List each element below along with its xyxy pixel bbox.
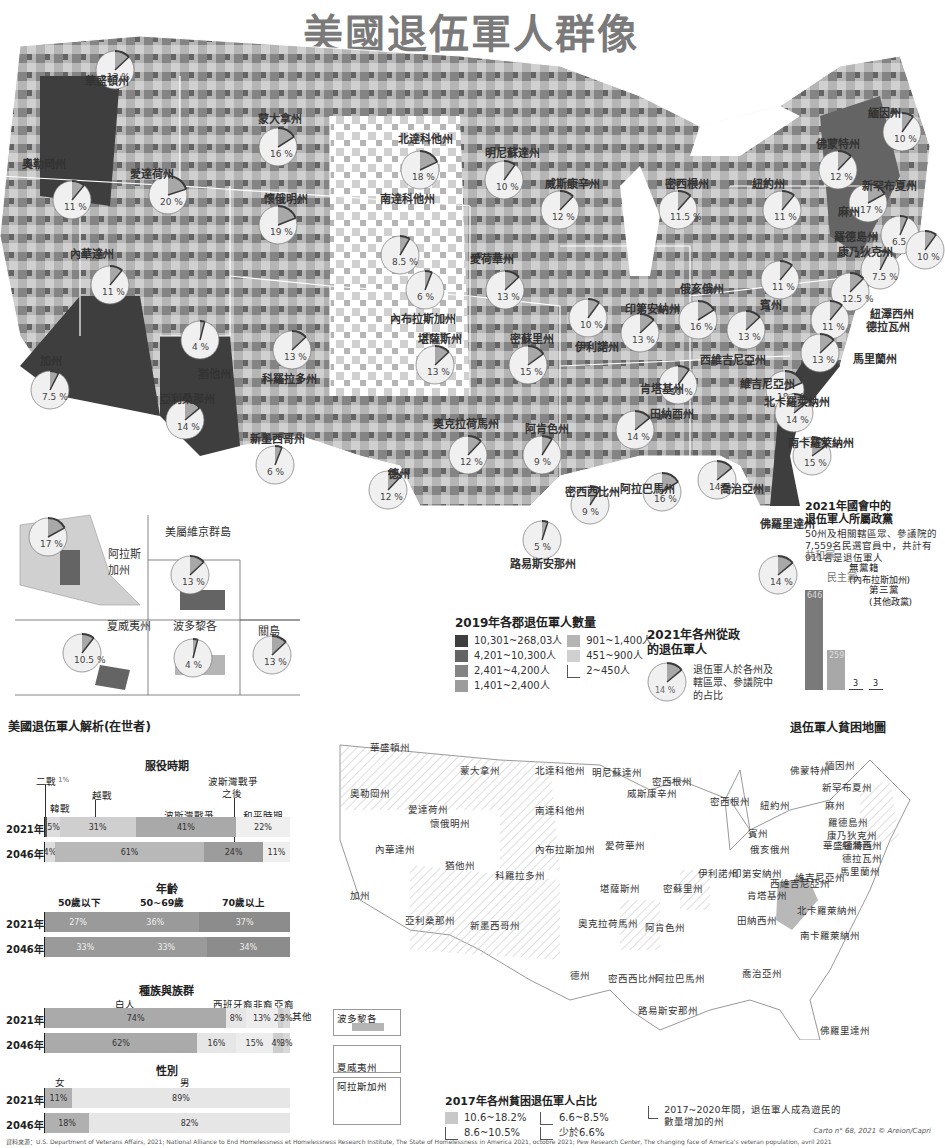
state-label: 阿肯色州 — [525, 420, 569, 436]
state-label: 田納西州 — [650, 405, 694, 421]
poverty-state-label: 北達科他州 — [535, 765, 585, 777]
territory-pie-pct: 13 % — [182, 577, 205, 587]
legend-swatch — [445, 1112, 458, 1124]
legend-swatch — [567, 635, 580, 647]
label-ww2-pct: 1% — [58, 776, 69, 784]
bar-segment: 41% — [136, 817, 236, 837]
poverty-state-label: 路易斯安那州 — [638, 1005, 698, 1017]
state-pie-pct: 11 % — [102, 287, 125, 297]
state-pie-pct: 13 % — [497, 292, 520, 302]
state-pie-pct: 15 % — [520, 367, 543, 377]
legend-swatch — [567, 665, 580, 678]
state-label: 佛蒙特州 — [816, 135, 860, 151]
state-pie-pct: 17 % — [860, 205, 883, 215]
bar-segment: 62% — [45, 1033, 197, 1053]
county-legend-item: 2,401~4,200人 — [455, 663, 567, 678]
legend-label: 1,401~2,400人 — [474, 680, 550, 691]
legend-label: 4,201~10,300人 — [474, 650, 556, 661]
state-label: 德州 — [388, 465, 410, 481]
legend-label: 6.6~8.5% — [559, 1112, 609, 1123]
state-pie-pct: 12 % — [830, 172, 853, 182]
state-pie-pct: 11 % — [822, 322, 845, 332]
territory-pie: 13 % — [170, 555, 210, 595]
row-year: 2046年 — [6, 1037, 44, 1052]
poverty-legend-item: 6.6~8.5% — [540, 1110, 635, 1125]
state-label: 麻州 — [838, 203, 860, 219]
state-pie-pct: 15 % — [804, 458, 827, 468]
legend-swatch — [567, 650, 580, 662]
legend-label: 10,301~268,03人 — [474, 635, 562, 646]
state-label: 奧勒岡州 — [22, 155, 66, 171]
territory-label: 關島 — [258, 622, 280, 638]
poverty-state-label: 加州 — [350, 890, 370, 902]
poverty-legend-title: 2017年各州貧困退伍軍人占比 — [445, 1092, 645, 1108]
state-label: 威斯康辛州 — [545, 175, 600, 191]
state-pie-pct: 13 % — [427, 367, 450, 377]
bar-segment: 3% — [283, 1008, 290, 1028]
congress-bar-value: 646 — [807, 591, 822, 600]
bar-segment: 8% — [226, 1008, 246, 1028]
poverty-state-label: 阿肯色州 — [645, 922, 685, 934]
state-pie-pct: 9 % — [582, 507, 599, 517]
poverty-state-label: 佛蒙特州 — [790, 765, 830, 777]
state-pie-pct: 18 % — [412, 172, 435, 182]
state-pie-pct: 6 % — [417, 292, 434, 302]
territories-insets: 17 %阿拉斯加州13 %美屬維京群島10.5 %夏威夷州4 %波多黎各13 %… — [0, 505, 320, 700]
poverty-state-label: 阿拉巴馬州 — [655, 973, 705, 985]
state-pie: 12 % — [448, 435, 488, 475]
state-label: 德拉瓦州 — [866, 318, 910, 334]
stacked-bar: 11%89% — [44, 1088, 290, 1108]
poverty-state-label: 蒙大拿州 — [460, 765, 500, 777]
state-pie: 6 % — [405, 270, 445, 310]
state-pie-pct: 10 % — [894, 134, 917, 144]
state-label: 北卡羅萊納州 — [764, 393, 830, 409]
poverty-state-label: 維吉尼亞州 — [795, 872, 845, 884]
poverty-state-label: 華盛頓州 — [370, 742, 410, 754]
gender-title: 性別 — [44, 1062, 289, 1078]
state-pie-pct: 16 % — [270, 149, 293, 159]
state-pie: 15 % — [508, 345, 548, 385]
congress-bar — [849, 688, 863, 690]
state-pie-pct: 10 % — [917, 252, 940, 262]
bar-segment: 31% — [60, 817, 136, 837]
label-post-gulf-2: 之後 — [222, 786, 242, 800]
territory-label: 美屬維京群島 — [165, 523, 231, 539]
state-pie-pct: 12 % — [460, 457, 483, 467]
poverty-state-label: 愛達荷州 — [408, 804, 448, 816]
territory-pie: 17 % — [28, 517, 68, 557]
poverty-state-label: 科羅拉多州 — [495, 870, 545, 882]
county-legend-item: 1,401~2,400人 — [455, 678, 567, 693]
row-year: 2021年 — [6, 821, 44, 836]
stacked-bar: 74%8%13%2%3% — [44, 1008, 290, 1028]
territory-pie: 13 % — [252, 635, 292, 675]
poverty-state-label: 德州 — [570, 970, 590, 982]
state-pie-pct: 13 % — [738, 332, 761, 342]
state-pie: 13 % — [620, 313, 660, 353]
poverty-state-label: 新罕布夏州 — [822, 782, 872, 794]
poverty-state-label: 威斯康辛州 — [627, 788, 677, 800]
hatch-legend: 2017~2020年間，退伍軍人成為遊民的數量增加的州 — [648, 1104, 848, 1128]
poverty-state-label: 內布拉斯加州 — [535, 844, 595, 856]
poverty-legend-item: 10.6~18.2% — [445, 1110, 540, 1125]
state-pie: 12 % — [540, 190, 580, 230]
state-label: 堪薩斯州 — [418, 330, 462, 346]
state-pie: 5 % — [522, 520, 562, 560]
state-pie: 14 % — [165, 400, 205, 440]
state-pie-pct: 14 % — [177, 422, 200, 432]
state-label: 緬因州 — [868, 104, 901, 120]
poverty-state-label: 麻州 — [825, 800, 845, 812]
poverty-state-label: 堪薩斯州 — [600, 883, 640, 895]
bar-segment: 16% — [197, 1033, 236, 1053]
race-title: 種族與族群 — [44, 982, 289, 998]
territory-label: 波多黎各 — [173, 617, 217, 633]
age-category: 50歲以下 — [58, 895, 101, 909]
poverty-state-label: 密西根州 — [652, 776, 692, 788]
state-label: 康乃狄克州 — [838, 243, 893, 259]
county-legend-item: 2~450人 — [567, 663, 655, 678]
bar-segment: 24% — [204, 842, 263, 862]
state-pie: 16 % — [258, 127, 298, 167]
state-label: 馬里蘭州 — [853, 350, 897, 366]
poverty-state-label: 奧克拉荷馬州 — [578, 918, 638, 930]
state-pie-pct: 10 % — [580, 320, 603, 330]
congress-party-chart: 2021年國會中的 退伍軍人所屬政黨 50州及相關轄區眾、參議院的7,559名民… — [805, 500, 941, 695]
